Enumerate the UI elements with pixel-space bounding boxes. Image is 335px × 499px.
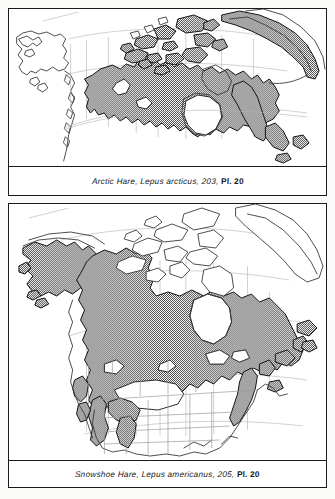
caption-common-name: Snowshoe Hare, bbox=[75, 470, 139, 479]
caption-page-number: 203, bbox=[201, 177, 218, 186]
caption-snowshoe-hare: Snowshoe Hare, Lepus americanus, 205, Pl… bbox=[75, 470, 260, 479]
caption-band-arctic-hare: Arctic Hare, Lepus arcticus, 203, Pl. 20 bbox=[9, 166, 326, 195]
caption-plate: Pl. 20 bbox=[237, 470, 260, 479]
north-america-arctic-range-map bbox=[9, 9, 326, 166]
north-america-snowshoe-range-map bbox=[9, 204, 326, 460]
caption-page-number: 205, bbox=[218, 470, 235, 479]
map-panel-snowshoe-hare: Snowshoe Hare, Lepus americanus, 205, Pl… bbox=[8, 203, 327, 488]
figure-page: Arctic Hare, Lepus arcticus, 203, Pl. 20 bbox=[0, 0, 335, 499]
caption-common-name: Arctic Hare, bbox=[91, 177, 137, 186]
map-panel-arctic-hare: Arctic Hare, Lepus arcticus, 203, Pl. 20 bbox=[8, 8, 327, 196]
map-arctic-hare bbox=[9, 9, 326, 166]
caption-scientific-name: Lepus americanus, bbox=[142, 470, 216, 479]
caption-arctic-hare: Arctic Hare, Lepus arcticus, 203, Pl. 20 bbox=[91, 177, 243, 186]
caption-plate: Pl. 20 bbox=[221, 177, 244, 186]
caption-scientific-name: Lepus arcticus, bbox=[140, 177, 199, 186]
map-snowshoe-hare bbox=[9, 204, 326, 460]
caption-band-snowshoe-hare: Snowshoe Hare, Lepus americanus, 205, Pl… bbox=[9, 460, 326, 487]
